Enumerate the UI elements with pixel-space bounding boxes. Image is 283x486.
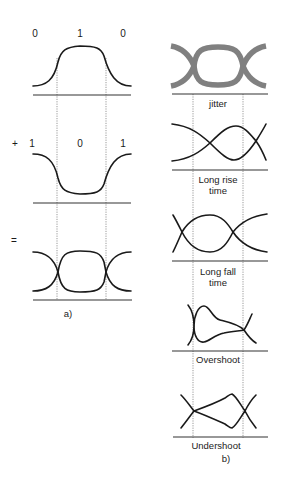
undershoot-label: Undershoot xyxy=(191,440,240,451)
pulse-0-1-0 xyxy=(33,46,131,86)
bit-label: 1 xyxy=(120,138,126,149)
eye-upper-right xyxy=(106,252,131,272)
jitter-eye xyxy=(171,46,266,86)
panel-b-caption: b) xyxy=(222,453,230,464)
undershoot-eye xyxy=(181,394,256,428)
panel-a xyxy=(33,46,132,300)
long-fall-time-eye xyxy=(173,214,267,252)
eye-lower-right xyxy=(106,272,131,291)
long-fall-time-label: Long fall time xyxy=(200,266,236,288)
eye-diagram-figure xyxy=(0,0,283,486)
long-rise-time-eye xyxy=(172,124,266,161)
bit-label: 1 xyxy=(77,28,83,39)
equals-operator: = xyxy=(11,235,17,246)
pulse-1-0-1 xyxy=(33,154,131,194)
long-rise-time-label: Long rise time xyxy=(198,174,237,196)
bit-label: 0 xyxy=(32,28,38,39)
eye-top xyxy=(58,251,106,272)
eye-lower-left xyxy=(33,272,58,291)
eye-upper-left xyxy=(33,252,58,272)
eye-bottom xyxy=(58,272,106,292)
bit-label: 1 xyxy=(29,138,35,149)
bit-label: 0 xyxy=(77,138,83,149)
overshoot-eye xyxy=(188,305,256,345)
jitter-label: jitter xyxy=(209,98,227,109)
bit-label: 0 xyxy=(120,28,126,39)
panel-a-caption: a) xyxy=(64,308,72,319)
plus-operator: + xyxy=(12,138,18,149)
overshoot-label: Overshoot xyxy=(196,354,240,365)
